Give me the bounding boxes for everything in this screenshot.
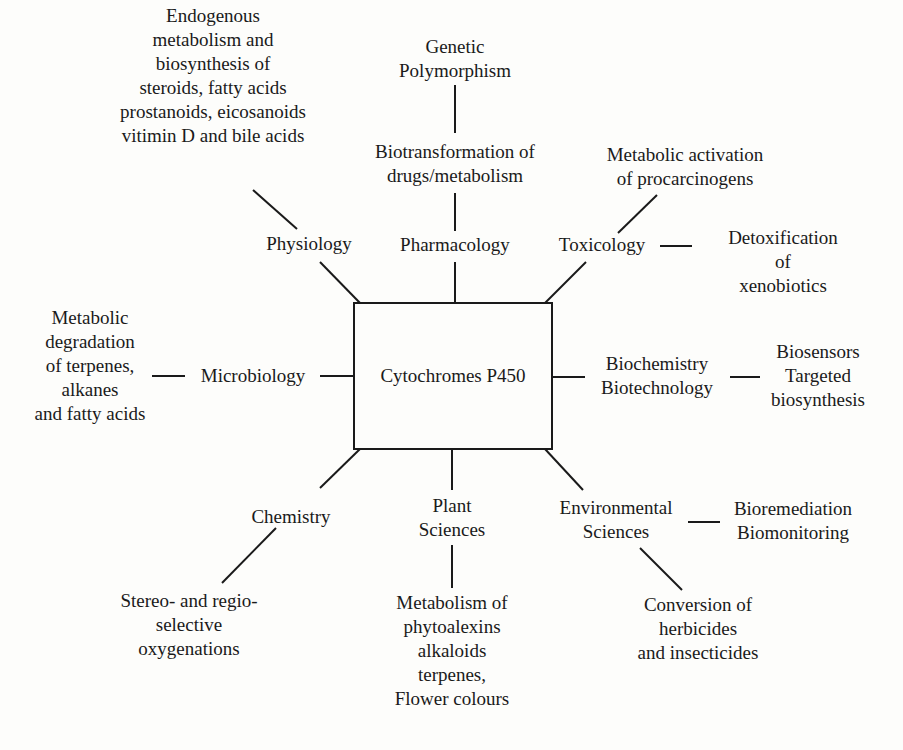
toxicology-detox-detail: Detoxification of xenobiotics [723, 226, 843, 298]
physiology-label: Physiology [266, 232, 352, 256]
microbiology-detail: Metabolic degradation of terpenes, alkan… [35, 306, 146, 426]
environmental-sciences-label: Environmental Sciences [560, 496, 673, 544]
connector-center-environmental [545, 449, 583, 490]
environmental-bioremediation-detail: Bioremediation Biomonitoring [734, 497, 852, 545]
toxicology-label: Toxicology [559, 233, 645, 257]
connector-center-toxicology [545, 262, 586, 303]
microbiology-label: Microbiology [201, 364, 306, 388]
biochemistry-detail: Biosensors Targeted biosynthesis [771, 340, 865, 412]
center-node-label: Cytochromes P450 [354, 303, 552, 449]
toxicology-activation-detail: Metabolic activation of procarcinogens [607, 143, 764, 191]
genetic-polymorphism: Genetic Polymorphism [399, 35, 511, 83]
chemistry-detail: Stereo- and regio- selective oxygenation… [120, 589, 257, 661]
physiology-detail: Endogenous metabolism and biosynthesis o… [120, 4, 306, 148]
connector-toxicology-activation [618, 195, 657, 233]
environmental-conversion-detail: Conversion of herbicides and insecticide… [638, 593, 759, 665]
connector-center-physiology [320, 262, 360, 303]
connector-chemistry-stereo [222, 528, 276, 583]
plant-sciences-label: Plant Sciences [419, 494, 485, 542]
connector-center-chemistry [320, 449, 360, 488]
chemistry-label: Chemistry [251, 505, 330, 529]
biotransformation-detail: Biotransformation of drugs/metabolism [375, 140, 535, 188]
plant-sciences-detail: Metabolism of phytoalexins alkaloids ter… [395, 591, 510, 711]
connector-environmental-conversion [640, 548, 682, 590]
pharmacology-label: Pharmacology [400, 233, 510, 257]
connector-physiology-endogenous [253, 190, 297, 229]
biochemistry-label: Biochemistry Biotechnology [601, 352, 713, 400]
